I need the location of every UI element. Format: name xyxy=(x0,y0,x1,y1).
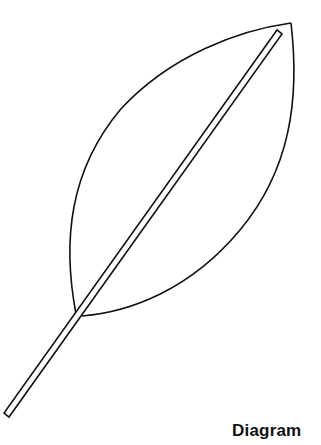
figure-caption: Diagram xyxy=(232,421,301,441)
leaf-diagram xyxy=(0,0,321,445)
